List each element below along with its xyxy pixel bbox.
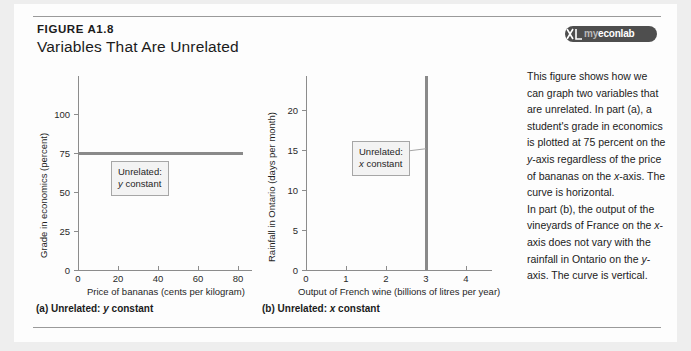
chart-panel-a: 0 25 50 75 100 0 20 40 60 80 Price of ba… bbox=[30, 62, 280, 307]
panel-a-x-axis-title: Price of bananas (cents per kilogram) bbox=[87, 286, 245, 297]
panel-b-callout-line2: x constant bbox=[359, 158, 403, 170]
panel-a-y-label-100: 100 bbox=[38, 109, 70, 120]
panel-b-y-tick-15 bbox=[302, 150, 306, 151]
panel-b-callout-line1: Unrelated: bbox=[359, 146, 403, 158]
myeconlab-my: my bbox=[584, 28, 598, 39]
panel-a-x-label-0: 0 bbox=[68, 273, 88, 284]
panel-a-x-label-60: 60 bbox=[188, 273, 208, 284]
figure-page: FIGURE A1.8 Variables That Are Unrelated… bbox=[0, 0, 691, 351]
panel-a-x-label-40: 40 bbox=[148, 273, 168, 284]
panel-a-x-label-20: 20 bbox=[108, 273, 128, 284]
panel-b-y-axis-title: Rainfall in Ontario (days per month) bbox=[266, 112, 277, 262]
panel-b-y-label-0: 0 bbox=[266, 265, 298, 276]
panel-b-caption: (b) Unrelated: x constant bbox=[262, 303, 380, 314]
panel-a-y-axis bbox=[78, 76, 79, 270]
panel-a-y-tick-25 bbox=[74, 231, 78, 232]
panel-b-x-tick-0 bbox=[306, 266, 307, 270]
myeconlab-econ: econ bbox=[598, 28, 621, 39]
panel-a-x-tick-60 bbox=[198, 266, 199, 270]
panel-a-y-tick-0 bbox=[74, 270, 78, 271]
header-divider bbox=[33, 16, 661, 17]
panel-a-caption-suffix: constant bbox=[109, 303, 153, 314]
panel-a-y-axis-title: Grade in economics (percent) bbox=[38, 133, 49, 258]
chart-panel-b: 0 5 10 15 20 0 1 2 3 4 Output of French … bbox=[258, 62, 508, 307]
panel-b-y-tick-5 bbox=[302, 230, 306, 231]
panel-a-caption: (a) Unrelated: y constant bbox=[36, 303, 153, 314]
description-paragraph-1: This figure shows how we can graph two v… bbox=[527, 68, 667, 201]
panel-b-x-tick-4 bbox=[466, 266, 467, 270]
panel-a-x-tick-40 bbox=[158, 266, 159, 270]
panel-a-data-line bbox=[78, 152, 243, 155]
figure-title: Variables That Are Unrelated bbox=[37, 38, 239, 56]
panel-a-callout-line2: y constant bbox=[118, 178, 162, 190]
panel-b-x-axis-title: Output of French wine (billions of litre… bbox=[298, 286, 500, 297]
panel-b-callout-word: constant bbox=[364, 158, 403, 169]
myeconlab-logo[interactable]: myeconlab bbox=[565, 26, 657, 42]
panel-b-data-line bbox=[425, 76, 428, 270]
panel-a-callout-word: constant bbox=[123, 178, 162, 189]
panel-b-x-axis bbox=[306, 270, 492, 271]
panel-b-callout: Unrelated: x constant bbox=[352, 141, 410, 176]
panel-a-y-tick-100 bbox=[74, 114, 78, 115]
panel-a-y-tick-50 bbox=[74, 192, 78, 193]
panel-b-x-tick-2 bbox=[386, 266, 387, 270]
panel-b-x-label-4: 4 bbox=[456, 273, 476, 284]
figure-description: This figure shows how we can graph two v… bbox=[527, 68, 667, 284]
panel-b-y-axis bbox=[306, 76, 307, 270]
panel-b-x-label-1: 1 bbox=[336, 273, 356, 284]
panel-a-x-label-80: 80 bbox=[228, 273, 248, 284]
panel-b-caption-prefix: (b) Unrelated: bbox=[262, 303, 330, 314]
panel-b-x-tick-1 bbox=[346, 266, 347, 270]
panel-a-x-tick-20 bbox=[118, 266, 119, 270]
panel-a-callout: Unrelated: y constant bbox=[111, 161, 169, 196]
panel-b-y-tick-0 bbox=[302, 270, 306, 271]
panel-b-caption-suffix: constant bbox=[335, 303, 379, 314]
description-paragraph-2: In part (b), the output of the vineyards… bbox=[527, 201, 667, 284]
panel-b-y-tick-20 bbox=[302, 110, 306, 111]
panel-b-x-label-2: 2 bbox=[376, 273, 396, 284]
myeconlab-lab: lab bbox=[621, 28, 635, 39]
panel-b-x-label-0: 0 bbox=[296, 273, 316, 284]
panel-b-x-label-3: 3 bbox=[416, 273, 436, 284]
panel-a-caption-prefix: (a) Unrelated: bbox=[36, 303, 103, 314]
description-p1-a: This figure shows how we can graph two v… bbox=[527, 70, 665, 148]
panel-a-callout-line1: Unrelated: bbox=[118, 166, 162, 178]
myeconlab-mark-icon bbox=[565, 26, 584, 42]
panel-a-x-tick-80 bbox=[238, 266, 239, 270]
footer-divider bbox=[33, 327, 661, 328]
panel-a-x-tick-0 bbox=[78, 266, 79, 270]
panel-a-x-axis bbox=[78, 270, 252, 271]
panel-a-y-label-0: 0 bbox=[38, 265, 70, 276]
panel-b-y-tick-10 bbox=[302, 190, 306, 191]
myeconlab-wordmark: myeconlab bbox=[584, 29, 634, 39]
description-p2-a: In part (b), the output of the vineyards… bbox=[527, 203, 654, 232]
figure-number: FIGURE A1.8 bbox=[37, 23, 114, 35]
